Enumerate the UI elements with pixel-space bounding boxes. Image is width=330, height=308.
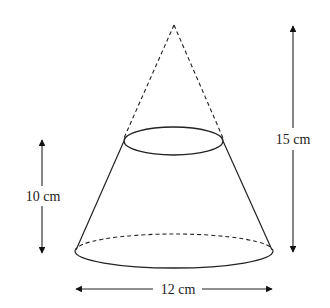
frustum-diagram: 10 cm 15 cm 12 cm	[0, 0, 330, 308]
frustum-base-ellipse	[75, 234, 273, 268]
base-diameter-label: 12 cm	[161, 282, 196, 297]
frustum-height-label: 10 cm	[26, 189, 61, 204]
cone-apex-dashed	[124, 25, 223, 138]
base-diameter-dimension: 12 cm	[76, 282, 272, 297]
frustum-slant-sides	[76, 141, 272, 250]
cone-height-dimension: 15 cm	[276, 26, 311, 252]
frustum-top-ellipse	[124, 127, 223, 155]
frustum-height-dimension: 10 cm	[26, 140, 61, 253]
cone-height-label: 15 cm	[276, 132, 311, 147]
